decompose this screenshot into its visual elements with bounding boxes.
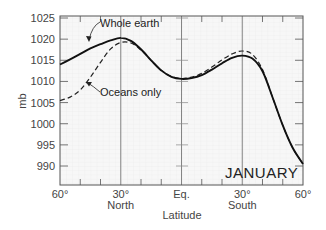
x-tick-label: 60° (52, 188, 69, 200)
y-tick-label: 1015 (31, 54, 55, 66)
y-tick-label: 990 (37, 160, 55, 172)
x-axis-tick-labels: 60°30°NorthEq.30°South60° (52, 188, 312, 211)
x-tick-label: 60° (295, 188, 312, 200)
plot-area (60, 16, 303, 185)
y-tick-label: 1005 (31, 97, 55, 109)
y-tick-label: 1010 (31, 75, 55, 87)
y-tick-label: 1025 (31, 12, 55, 24)
y-tick-label: 1000 (31, 118, 55, 130)
y-axis-tick-labels: 102510201015101010051000995990 (31, 12, 55, 172)
whole-earth-label: Whole earth (100, 17, 159, 29)
x-axis-label: Latitude (162, 209, 201, 221)
x-tick-label: Eq. (173, 188, 190, 200)
x-tick-sublabel: North (107, 199, 134, 211)
x-tick-sublabel: South (228, 199, 257, 211)
oceans-only-label: Oceans only (100, 86, 162, 98)
month-label: JANUARY (225, 164, 298, 181)
y-tick-label: 995 (37, 139, 55, 151)
pressure-latitude-chart: 102510201015101010051000995990 60°30°Nor… (0, 0, 326, 230)
y-axis-label: mb (16, 93, 28, 108)
y-tick-label: 1020 (31, 33, 55, 45)
